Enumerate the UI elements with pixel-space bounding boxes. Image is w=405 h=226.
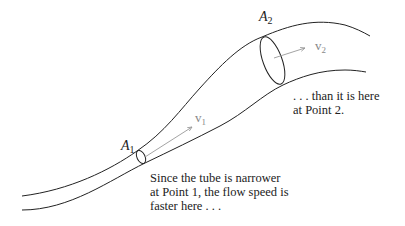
cross-section-a2 [255, 34, 290, 87]
velocity-arrow-2 [274, 48, 305, 58]
label-a2: A2 [258, 9, 273, 26]
annotation-point1-line2: at Point 1, the flow speed is [150, 185, 289, 199]
label-v2: v2 [315, 38, 326, 55]
annotation-point2-line1: . . . than it is here [293, 89, 379, 103]
label-v1: v1 [195, 110, 206, 127]
annotation-point1: Since the tube is narrower at Point 1, t… [150, 171, 289, 213]
annotation-point1-line1: Since the tube is narrower [150, 171, 289, 185]
label-a1: A1 [120, 138, 135, 155]
annotation-point1-line3: faster here . . . [150, 199, 289, 213]
annotation-point2: . . . than it is here at Point 2. [293, 89, 379, 117]
annotation-point2-line2: at Point 2. [293, 103, 379, 117]
velocity-arrow-1 [145, 127, 192, 157]
